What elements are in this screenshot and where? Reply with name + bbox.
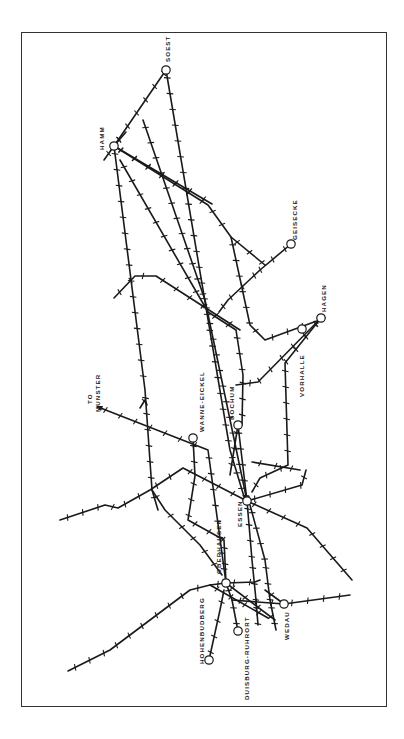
- track-tick: [180, 172, 187, 173]
- station-label-hagen: HAGEN: [320, 284, 327, 312]
- track-tick: [218, 581, 219, 588]
- station-marker-hamm: [110, 142, 118, 150]
- track-tick: [215, 377, 222, 378]
- track-tick: [244, 508, 251, 509]
- track-tick: [339, 593, 340, 600]
- track-tick: [249, 556, 256, 557]
- track-tick: [120, 217, 127, 218]
- station-label-hamm: HAMM: [98, 126, 105, 150]
- track-tick: [74, 664, 76, 670]
- station-label-oberhausen: OBERHAUSEN: [215, 519, 222, 574]
- track-tick: [251, 583, 258, 584]
- station-marker-wedau: [280, 600, 288, 608]
- track-tick: [194, 279, 201, 280]
- track-tick: [249, 579, 250, 586]
- track-tick: [217, 393, 224, 394]
- rail-line-essen-se: [247, 501, 352, 580]
- track-tick: [112, 154, 119, 155]
- rail-line-vorhalle-a: [236, 318, 321, 385]
- rail-line-vorhalle-b: [252, 318, 321, 492]
- station-label-wedau: WEDAU: [283, 611, 290, 640]
- station-label-bochum: BOCHUM: [228, 386, 235, 420]
- track-tick: [284, 434, 290, 435]
- track-tick: [147, 461, 154, 462]
- track-tick: [287, 329, 288, 336]
- track-tick: [168, 203, 175, 204]
- track-tick: [183, 188, 190, 189]
- station-label-geisecke: GEISECKE: [291, 199, 298, 240]
- track-tick: [267, 599, 274, 600]
- track-tick: [204, 314, 211, 315]
- track-tick: [134, 328, 141, 329]
- track-tick: [220, 409, 227, 410]
- track-tick: [136, 344, 143, 345]
- rail-line-oberhausen-cross: [226, 580, 260, 583]
- track-tick: [191, 235, 198, 236]
- track-tick: [116, 185, 123, 186]
- track-tick: [225, 590, 232, 591]
- track-tick: [172, 125, 179, 126]
- track-tick: [196, 267, 203, 268]
- station-marker-wanne-eickel: [189, 434, 197, 442]
- track-tick: [201, 299, 208, 300]
- track-tick: [239, 369, 246, 370]
- rail-line-wedau-east: [232, 595, 350, 604]
- track-tick: [169, 109, 176, 110]
- track-tick: [167, 93, 174, 94]
- track-tick: [143, 413, 150, 414]
- track-tick: [148, 477, 155, 478]
- track-tick: [67, 514, 68, 521]
- track-tick: [174, 218, 181, 219]
- track-tick: [163, 188, 170, 189]
- track-tick: [177, 157, 184, 158]
- track-tick: [184, 248, 191, 249]
- track-tick: [223, 425, 230, 426]
- station-label-hohenbudberg: HOHENBUDBERG: [198, 597, 205, 664]
- track-tick: [191, 461, 198, 462]
- track-tick: [145, 429, 152, 430]
- track-tick: [142, 127, 149, 128]
- track-tick: [266, 472, 267, 478]
- annotation-to-munster-line-0: TO: [86, 393, 93, 404]
- track-tick: [207, 330, 214, 331]
- track-tick: [124, 249, 131, 250]
- track-tick: [118, 201, 125, 202]
- track-tick: [250, 380, 251, 387]
- track-tick: [283, 402, 289, 403]
- track-tick: [199, 283, 206, 284]
- track-tick: [138, 360, 145, 361]
- track-tick: [272, 334, 273, 341]
- track-tick: [263, 568, 270, 569]
- station-label-vorhalle: VORHALLE: [298, 354, 305, 397]
- station-label-soest: SOEST: [164, 36, 171, 62]
- track-tick: [236, 353, 243, 354]
- station-marker-hohenbudberg: [205, 656, 213, 664]
- track-tick: [200, 294, 207, 295]
- track-tick: [210, 489, 217, 490]
- track-tick: [146, 445, 153, 446]
- track-tick: [233, 580, 234, 586]
- track-tick: [89, 657, 90, 664]
- track-tick: [153, 158, 160, 159]
- track-tick: [212, 362, 219, 363]
- track-tick: [126, 265, 133, 266]
- railway-network-map: SOESTHAMMGEISECKEHAGENVORHALLEBOCHUMWANN…: [0, 0, 404, 739]
- rail-line-dortmund-west: [114, 276, 240, 330]
- track-tick: [175, 141, 182, 142]
- station-marker-essen: [243, 497, 251, 505]
- track-tick: [282, 370, 289, 371]
- station-marker-soest: [162, 66, 170, 74]
- track-tick: [292, 600, 293, 607]
- track-tick: [225, 441, 232, 442]
- track-tick: [130, 296, 137, 297]
- track-tick: [208, 473, 215, 474]
- track-tick: [189, 263, 196, 264]
- track-tick: [209, 346, 216, 347]
- track-tick: [142, 397, 149, 398]
- rail-line-munster: [98, 407, 226, 583]
- station-marker-bochum: [234, 421, 242, 429]
- rail-line-oberhausen-wedau: [226, 583, 275, 620]
- track-tick: [265, 583, 272, 584]
- track-tick: [193, 251, 200, 252]
- station-marker-oberhausen: [222, 579, 230, 587]
